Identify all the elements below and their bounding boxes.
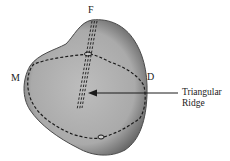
tooth-outline [24,20,147,155]
tooth-diagram [0,0,230,161]
callout-label: Triangular Ridge [182,87,222,109]
bottom-pit [98,135,104,139]
callout-line-1: Triangular [182,87,222,98]
label-m: M [11,73,20,83]
callout-line-2: Ridge [182,98,222,109]
label-f: F [88,5,94,15]
top-pit [85,52,92,56]
label-d: D [147,72,154,82]
